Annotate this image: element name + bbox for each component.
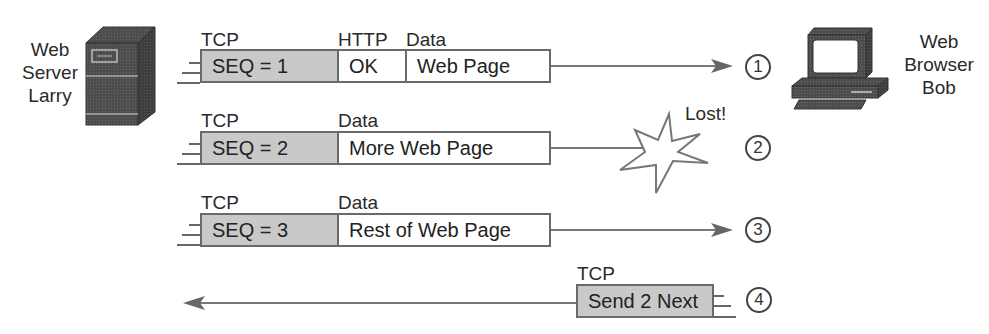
lost-burst-icon (620, 114, 708, 193)
client-label-line: Web (894, 30, 984, 53)
tcp-seq-field: SEQ = 1 (200, 49, 339, 83)
server-label: Web Server Larry (14, 38, 86, 107)
data-field: Web Page (405, 49, 551, 83)
header-label-http: HTTP (338, 30, 388, 50)
step-number-badge: 3 (745, 217, 771, 243)
header-label-tcp: TCP (201, 193, 239, 213)
desktop-pc-icon (792, 28, 888, 109)
lost-label: Lost! (685, 104, 726, 124)
header-label-data: Data (338, 111, 378, 131)
client-label: Web Browser Bob (894, 30, 984, 99)
server-label-line: Web (14, 38, 86, 61)
server-label-line: Larry (14, 84, 86, 107)
header-label-tcp: TCP (201, 30, 239, 50)
step-number-badge: 1 (745, 54, 771, 80)
header-label-data: Data (406, 30, 446, 50)
server-label-line: Server (14, 61, 86, 84)
tcp-seq-field: SEQ = 3 (200, 213, 339, 247)
data-field: Rest of Web Page (337, 213, 551, 247)
step-number-badge: 2 (745, 135, 771, 161)
server-tower-icon (86, 27, 155, 125)
header-label-tcp: TCP (201, 111, 239, 131)
tcp-ack-field: Send 2 Next (576, 284, 714, 318)
data-field: More Web Page (337, 131, 551, 165)
header-label-data: Data (338, 193, 378, 213)
http-field: OK (337, 49, 407, 83)
tcp-seq-field: SEQ = 2 (200, 131, 339, 165)
client-label-line: Browser (894, 53, 984, 76)
header-label-tcp: TCP (577, 264, 615, 284)
client-label-line: Bob (894, 76, 984, 99)
step-number-badge: 4 (746, 287, 772, 313)
